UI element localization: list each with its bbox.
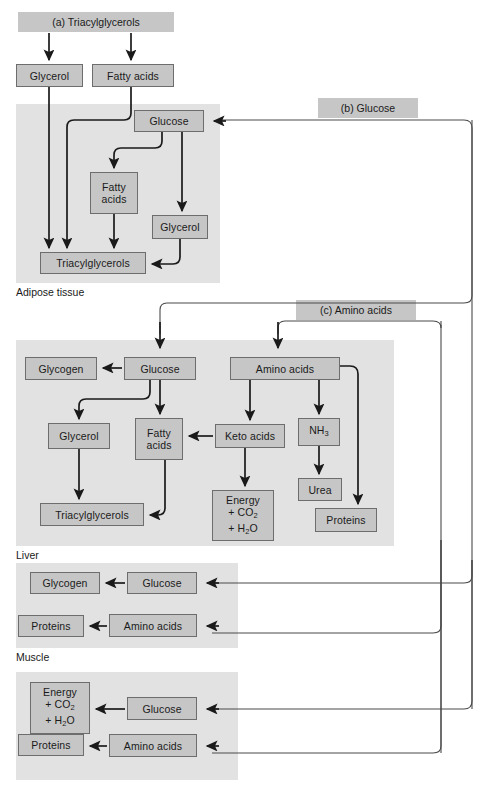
- box-brain-amino-acids: Amino acids: [109, 734, 197, 757]
- box-adipose-triacylglycerols: Triacylglycerols: [40, 252, 146, 274]
- box-brain-proteins: Proteins: [18, 734, 84, 756]
- box-fatty-acids-top: Fatty acids: [92, 64, 174, 87]
- header-band-c: (c) Amino acids: [296, 300, 416, 320]
- liver-energy-line2: + CO2: [228, 506, 257, 522]
- route-b-to-muscle-glucose: [212, 560, 472, 583]
- box-liver-fatty-acids-label: Fatty acids: [136, 427, 182, 451]
- box-liver-amino-acids: Amino acids: [230, 357, 340, 380]
- box-muscle-amino-acids: Amino acids: [109, 614, 197, 637]
- brain-energy-line3: + H2O: [45, 714, 75, 730]
- box-muscle-glucose: Glucose: [127, 572, 197, 594]
- box-liver-urea: Urea: [298, 478, 342, 501]
- box-adipose-fatty-acids-label: Fatty acids: [91, 181, 137, 205]
- liver-energy-line1: Energy: [226, 494, 260, 506]
- nh3-subscript: 3: [325, 429, 329, 438]
- box-liver-proteins: Proteins: [315, 508, 377, 532]
- box-muscle-proteins: Proteins: [18, 615, 84, 637]
- tissue-label-adipose: Adipose tissue: [16, 286, 84, 298]
- header-band-b: (b) Glucose: [318, 98, 418, 118]
- box-liver-fatty-acids: Fatty acids: [135, 418, 183, 460]
- box-liver-keto-acids: Keto acids: [215, 424, 285, 448]
- box-liver-nh3: NH3: [298, 418, 340, 446]
- box-liver-glycogen: Glycogen: [25, 357, 97, 380]
- route-c-to-liver-amino-acids: [278, 321, 441, 334]
- box-adipose-glucose: Glucose: [134, 110, 204, 132]
- brain-energy-line1: Energy: [43, 686, 77, 698]
- tissue-label-muscle: Muscle: [16, 651, 49, 663]
- box-adipose-fatty-acids: Fatty acids: [90, 172, 138, 214]
- route-b-to-adipose-glucose: [218, 120, 472, 290]
- box-liver-nh3-label: NH3: [309, 424, 329, 440]
- box-muscle-glycogen: Glycogen: [30, 572, 100, 594]
- liver-energy-line3: + H2O: [228, 522, 258, 538]
- route-b-to-brain-glucose: [212, 560, 472, 709]
- box-brain-energy: Energy + CO2 + H2O: [30, 682, 90, 734]
- brain-energy-line2: + CO2: [45, 698, 74, 714]
- header-band-a: (a) Triacylglycerols: [18, 12, 174, 32]
- route-c-to-muscle-amino-acids: [212, 540, 441, 633]
- tissue-label-liver: Liver: [16, 549, 39, 561]
- box-liver-glucose: Glucose: [124, 357, 196, 380]
- box-liver-triacylglycerols: Triacylglycerols: [40, 503, 144, 526]
- box-brain-glucose: Glucose: [127, 697, 197, 720]
- box-glycerol-top: Glycerol: [16, 64, 83, 87]
- box-adipose-glycerol: Glycerol: [152, 215, 208, 239]
- box-liver-glycerol: Glycerol: [48, 423, 110, 449]
- box-liver-energy: Energy + CO2 + H2O: [212, 490, 274, 541]
- figure-canvas: (a) Triacylglycerols (b) Glucose (c) Ami…: [0, 0, 481, 795]
- route-c-to-brain-amino-acids: [212, 540, 441, 753]
